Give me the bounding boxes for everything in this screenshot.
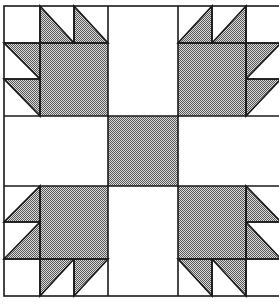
paw-square <box>178 43 246 116</box>
bears-paw-quilt-block <box>0 0 279 306</box>
paw-square <box>40 43 108 116</box>
paw-square <box>40 186 108 259</box>
center-square <box>108 116 178 186</box>
paw-square <box>178 186 246 259</box>
